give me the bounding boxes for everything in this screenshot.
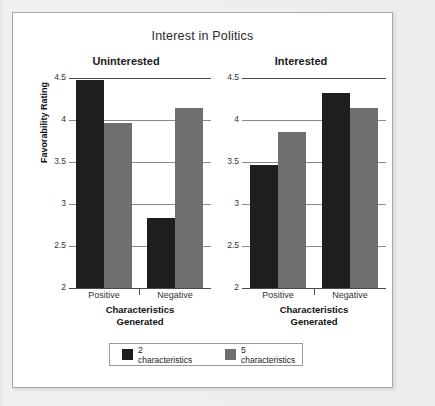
- x-axis-label-line2: Generated: [291, 316, 338, 327]
- panel-title: Interested: [216, 55, 386, 67]
- legend-item-5-characteristics: 5 characteristics: [225, 345, 302, 365]
- legend-label: 2 characteristics: [138, 345, 199, 365]
- panel-title: Uninterested: [41, 55, 211, 67]
- bar-uninterested-negative-5char: [175, 108, 203, 288]
- x-tick-negative: Negative: [320, 290, 380, 300]
- panel-uninterested: Uninterested Favorability Rating 4.5 4 3…: [41, 55, 211, 335]
- gridline-4-5: 4.5: [242, 78, 386, 79]
- x-axis-label: CharacteristicsGenerated: [242, 304, 386, 327]
- y-tick-label: 4: [234, 114, 239, 124]
- y-tick-label: 3.5: [227, 156, 239, 166]
- x-tick-positive: Positive: [248, 290, 308, 300]
- x-axis-label-line2: Generated: [117, 316, 164, 327]
- y-tick-label: 4: [61, 114, 66, 124]
- plot-area-uninterested: 4.5 4 3.5 3 2.5 2: [69, 78, 211, 288]
- y-tick-label: 2: [234, 282, 239, 292]
- plot-area-interested: 4.5 4 3.5 3 2.5 2: [242, 78, 386, 288]
- legend-swatch-icon: [122, 349, 133, 360]
- chart-legend: 2 characteristics 5 characteristics: [109, 343, 303, 366]
- x-axis-label-line1: Characteristics: [106, 304, 175, 315]
- legend-item-2-characteristics: 2 characteristics: [122, 345, 199, 365]
- gridline-2-axis: 2: [69, 288, 211, 289]
- figure-frame: Interest in Politics Uninterested Favora…: [12, 12, 393, 388]
- x-axis-label-line1: Characteristics: [280, 304, 349, 315]
- bar-uninterested-negative-2char: [147, 218, 175, 288]
- x-tick-positive: Positive: [74, 290, 134, 300]
- y-tick-label: 3: [234, 198, 239, 208]
- page-background: Interest in Politics Uninterested Favora…: [0, 0, 435, 406]
- gridline-4-5: 4.5: [69, 78, 211, 79]
- bar-interested-negative-2char: [322, 93, 350, 288]
- x-axis-label: CharacteristicsGenerated: [69, 304, 211, 327]
- bar-interested-negative-5char: [350, 108, 378, 288]
- x-axis-separator: [139, 289, 140, 295]
- y-tick-label: 3: [61, 198, 66, 208]
- legend-swatch-icon: [225, 349, 236, 360]
- chart-figure: Interest in Politics Uninterested Favora…: [13, 13, 392, 387]
- bar-interested-positive-5char: [278, 132, 306, 288]
- bar-uninterested-positive-2char: [76, 80, 104, 288]
- x-tick-negative: Negative: [145, 290, 205, 300]
- panel-interested: Interested 4.5 4 3.5 3 2.5: [216, 55, 386, 335]
- bar-uninterested-positive-5char: [104, 123, 132, 288]
- legend-label: 5 characteristics: [241, 345, 302, 365]
- y-tick-label: 2.5: [54, 240, 66, 250]
- bar-interested-positive-2char: [250, 165, 278, 288]
- y-tick-label: 2: [61, 282, 66, 292]
- y-tick-label: 4.5: [227, 72, 239, 82]
- y-tick-label: 2.5: [227, 240, 239, 250]
- chart-title: Interest in Politics: [13, 29, 392, 43]
- y-axis-label: Favorability Rating: [39, 82, 49, 163]
- y-tick-label: 4.5: [54, 72, 66, 82]
- y-tick-label: 3.5: [54, 156, 66, 166]
- x-axis-separator: [314, 289, 315, 295]
